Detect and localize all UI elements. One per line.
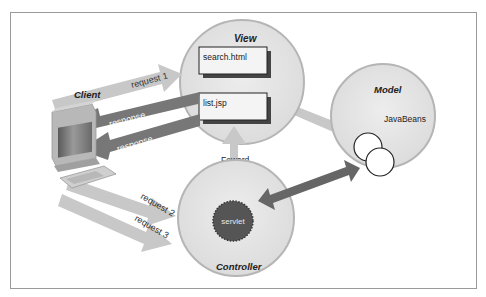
mvc-diagram: View search.html list.jsp Foward servlet… bbox=[0, 0, 486, 297]
model-label: Model bbox=[374, 84, 402, 95]
controller-label: Controller bbox=[216, 261, 263, 272]
list-jsp-box: list.jsp bbox=[199, 93, 271, 124]
javabean-circle-front bbox=[366, 148, 394, 176]
list-jsp-label: list.jsp bbox=[203, 98, 227, 108]
search-html-label: search.html bbox=[203, 52, 247, 62]
client-label: Client bbox=[74, 89, 101, 100]
servlet-label: servlet bbox=[221, 217, 245, 226]
view-label: View bbox=[234, 33, 258, 44]
search-html-box: search.html bbox=[199, 47, 271, 78]
javabeans-label: JavaBeans bbox=[384, 114, 426, 124]
controller-node: servlet Controller bbox=[178, 160, 294, 276]
